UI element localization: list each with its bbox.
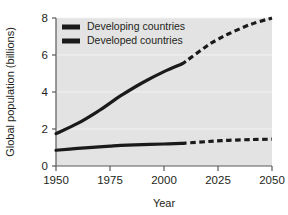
y-tick-label-4: 4 [42,86,49,98]
legend-label-developing: Developing countries [87,20,185,32]
y-tick-label-0: 0 [42,160,48,172]
global-population-line-chart: 02468 19501975200020252050 Global popula… [0,0,288,215]
legend-swatch-developed [62,39,80,44]
y-tick-label-6: 6 [42,49,48,61]
x-tick-label-2025: 2025 [205,174,231,186]
x-tick-label-2000: 2000 [151,174,177,186]
x-axis-title: Year [153,197,176,209]
x-tick-label-2050: 2050 [259,174,285,186]
y-tick-label-2: 2 [42,123,48,135]
x-tick-label-1975: 1975 [97,174,123,186]
legend-swatch-developing [62,25,80,30]
x-tick-label-1950: 1950 [43,174,69,186]
chart-figure: 02468 19501975200020252050 Global popula… [0,0,288,215]
y-axis-title: Global population (billions) [4,27,16,157]
y-tick-label-8: 8 [42,12,48,24]
legend-label-developed: Developed countries [87,34,183,46]
